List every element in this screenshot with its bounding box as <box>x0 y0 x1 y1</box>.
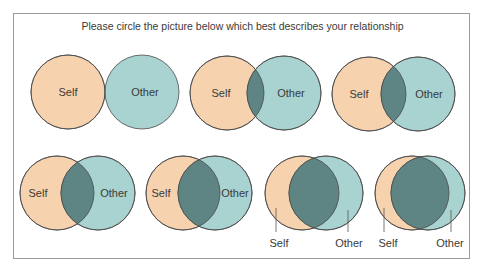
other-label: Other <box>221 187 249 199</box>
other-label: Other <box>415 88 443 100</box>
other-label: Other <box>131 86 159 98</box>
self-label: Self <box>29 187 49 199</box>
self-label: Self <box>379 237 399 249</box>
venn-option-3[interactable]: Self Other <box>332 57 455 131</box>
other-label: Other <box>277 87 305 99</box>
venn-option-7[interactable]: Self Other <box>375 156 465 249</box>
venn-option-6[interactable]: Self Other <box>265 156 363 249</box>
venn-options: Self Other Self Other Self Other Self Ot… <box>0 0 485 273</box>
venn-option-4[interactable]: Self Other <box>20 156 135 230</box>
self-label: Self <box>212 87 232 99</box>
venn-option-2[interactable]: Self Other <box>190 56 321 130</box>
other-label: Other <box>100 187 128 199</box>
venn-option-1[interactable]: Self Other <box>31 55 179 129</box>
self-label: Self <box>350 88 370 100</box>
venn-option-5[interactable]: Self Other <box>146 156 252 230</box>
self-label: Self <box>270 237 290 249</box>
self-label: Self <box>152 187 172 199</box>
other-label: Other <box>436 237 464 249</box>
self-label: Self <box>59 86 79 98</box>
other-label: Other <box>335 237 363 249</box>
